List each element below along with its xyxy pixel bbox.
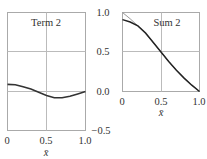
term2-xlabel: x̄ [43, 147, 49, 158]
sum2-xtick-05: 0.5 [154, 96, 167, 107]
term2-chart: Term 2 0 0.5 1.0 x̄ [4, 13, 91, 159]
term2-xtick-1: 1.0 [78, 135, 91, 146]
ytick-0: 0.0 [96, 86, 109, 97]
sum2-title: Sum 2 [153, 17, 180, 28]
term2-xtick-0: 0 [4, 135, 9, 146]
sum2-xtick-0: 0 [119, 96, 124, 107]
ytick-m05: −0.5 [91, 125, 110, 136]
sum2-xtick-1: 1.0 [192, 96, 205, 107]
ytick-1: 1.0 [96, 7, 109, 18]
figure: Term 2 0 0.5 1.0 x̄ 1.0 0.5 0.0 −0.5 Sum… [0, 0, 207, 159]
term2-xtick-05: 0.5 [39, 135, 52, 146]
y-axis-labels: 1.0 0.5 0.0 −0.5 [91, 7, 110, 136]
sum2-xlabel: x̄ [158, 107, 164, 118]
term2-title: Term 2 [31, 17, 61, 28]
ytick-05: 0.5 [96, 46, 109, 57]
sum2-chart: Sum 2 0 0.5 1.0 x̄ [119, 13, 205, 119]
